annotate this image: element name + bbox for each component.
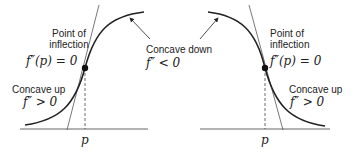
concave-down-label: Concave down (146, 44, 212, 55)
right-inflection-point (262, 65, 268, 71)
arrow-to-left-curve (130, 18, 150, 39)
left-inflection-condition: f″(p) = 0 (26, 54, 77, 68)
right-axis-p-label: p (261, 133, 269, 147)
right-inflection-label-line2: inflection (270, 39, 309, 50)
concave-down-condition: f″ < 0 (146, 56, 180, 70)
right-inflection-condition: f″(p) = 0 (270, 54, 321, 68)
left-concave-up-label: Concave up (12, 84, 65, 95)
left-axis-p-label: p (81, 133, 89, 147)
left-inflection-point (82, 65, 88, 71)
left-inflection-label-line2: inflection (46, 39, 92, 50)
right-inflection-label-line1: Point of (270, 28, 309, 39)
inflection-diagram (0, 0, 352, 158)
arrow-to-right-curve (200, 18, 218, 39)
left-concave-up-condition: f″ > 0 (23, 95, 57, 109)
left-inflection-label-line1: Point of (46, 28, 92, 39)
right-concave-up-condition: f″ > 0 (290, 95, 324, 109)
right-concave-up-label: Concave up (289, 84, 342, 95)
left-inflection-label: Point of inflection (46, 28, 92, 50)
right-inflection-label: Point of inflection (270, 28, 309, 50)
